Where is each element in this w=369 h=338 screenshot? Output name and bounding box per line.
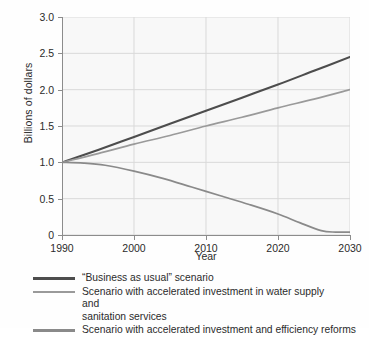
chart-legend: “Business as usual” scenarioScenario wit… <box>33 272 363 338</box>
legend-label: Scenario with accelerated investment and… <box>82 324 356 337</box>
y-tick-label: 0.5 <box>0 194 54 205</box>
y-axis-spine <box>62 17 63 236</box>
legend-swatch-line-icon <box>33 291 75 294</box>
x-tick-mark <box>206 236 207 240</box>
plot-area <box>62 17 350 235</box>
legend-label: “Business as usual” scenario <box>82 272 214 285</box>
y-tick-label: 0 <box>0 230 54 241</box>
x-axis-label: Year <box>62 250 350 262</box>
legend-swatch-line-icon <box>33 329 75 332</box>
legend-swatch-line-icon <box>33 277 75 280</box>
x-tick-mark <box>134 236 135 240</box>
y-tick-label: 1.5 <box>0 121 54 132</box>
chart-canvas <box>62 17 350 235</box>
x-tick-mark <box>278 236 279 240</box>
legend-item-3[interactable]: Scenario with accelerated investment and… <box>33 324 363 337</box>
x-tick-mark <box>350 236 351 240</box>
legend-item-2[interactable]: Scenario with accelerated investment in … <box>33 286 363 324</box>
y-tick-label: 1.0 <box>0 157 54 168</box>
y-tick-label: 2.0 <box>0 85 54 96</box>
x-tick-mark <box>62 236 63 240</box>
y-tick-label: 2.5 <box>0 48 54 59</box>
y-tick-label: 3.0 <box>0 12 54 23</box>
legend-label: Scenario with accelerated investment in … <box>82 286 340 324</box>
legend-item-1[interactable]: “Business as usual” scenario <box>33 272 363 285</box>
